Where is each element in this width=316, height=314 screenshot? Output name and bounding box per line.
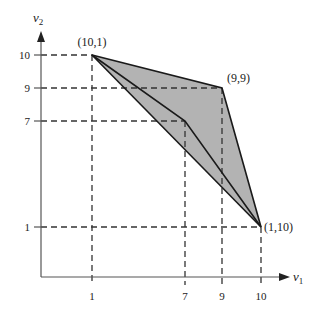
y-tick-9: 9 [25, 82, 31, 94]
x-tick-1: 1 [89, 290, 95, 302]
point-label-10-1: (10,1) [78, 35, 107, 49]
point-label-1-10: (1,10) [264, 220, 293, 234]
y-tick-10: 10 [19, 49, 31, 61]
y-axis-label: v2 [33, 10, 43, 27]
y-axis-arrow-icon [37, 31, 45, 42]
x-tick-9: 9 [219, 290, 225, 302]
x-tick-7: 7 [182, 290, 188, 302]
point-label-9-9: (9,9) [227, 71, 250, 85]
y-tick-1: 1 [25, 221, 31, 233]
x-axis-label: v1 [293, 269, 303, 286]
region-diagram: v2 v1 10 9 7 1 1 7 9 10 (10,1) (9,9) (1,… [0, 0, 316, 314]
y-tick-7: 7 [25, 115, 31, 127]
x-tick-10: 10 [256, 290, 268, 302]
x-axis-arrow-icon [279, 273, 290, 281]
